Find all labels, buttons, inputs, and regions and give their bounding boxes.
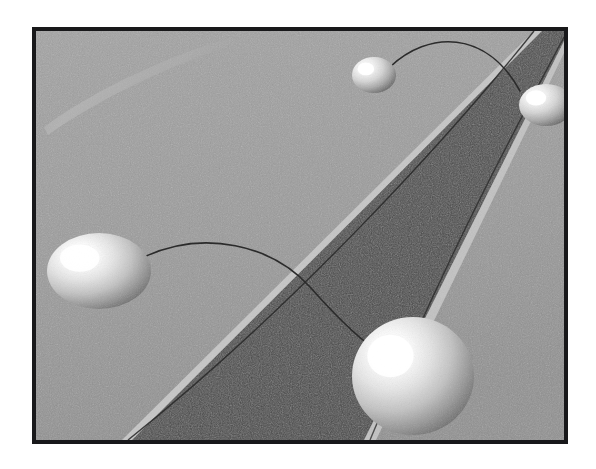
picture-frame: [32, 27, 568, 444]
sphere-small-top: [352, 57, 396, 93]
rendered-scene: [36, 31, 564, 440]
sphere-bottom-right: [352, 317, 474, 435]
screenshot-root: [0, 0, 596, 469]
sphere-left-mid: [47, 233, 151, 309]
